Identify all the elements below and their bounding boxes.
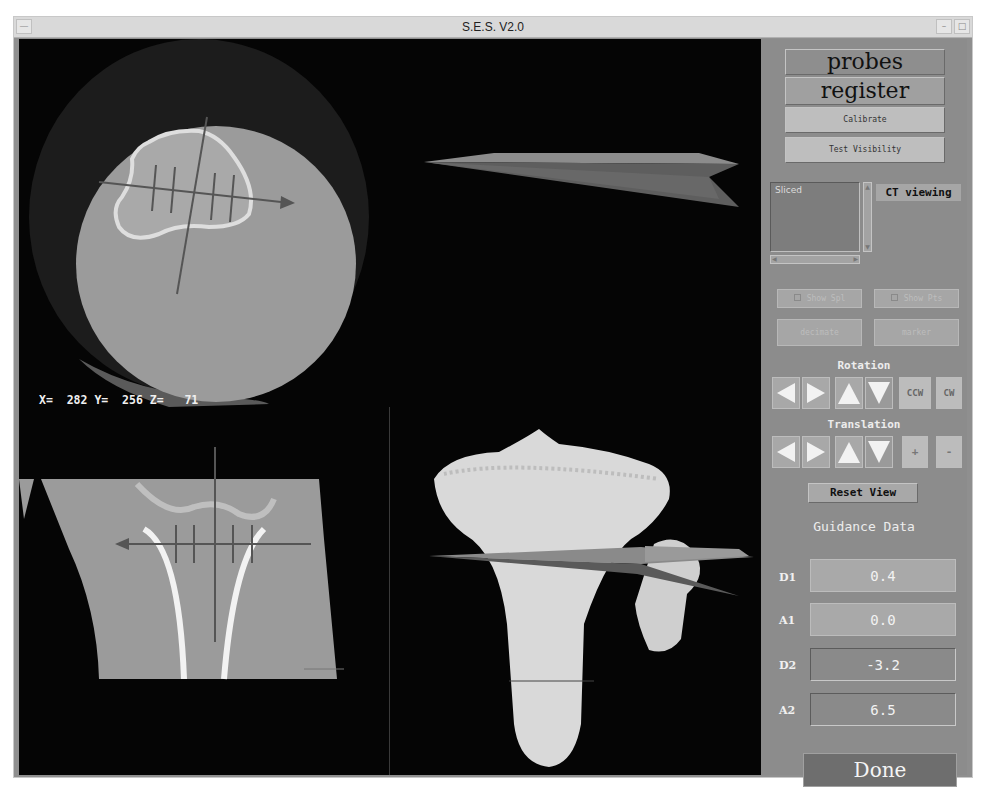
minimize-button[interactable]: – (936, 19, 952, 34)
list-vertical-scrollbar[interactable]: ▲ ▼ (863, 182, 872, 252)
probes-button[interactable]: probes (785, 49, 945, 75)
slice-coordinates: X= 282 Y= 256 Z= 71 (39, 393, 198, 407)
list-horizontal-scrollbar[interactable]: ◀ ▶ (770, 255, 860, 264)
rotate-cw-button[interactable]: CW (936, 377, 962, 409)
a1-label: A1 (779, 614, 795, 627)
axial-ct-view[interactable] (19, 39, 389, 409)
list-item[interactable]: Sliced (771, 183, 859, 197)
ct-viewing-label: CT viewing (876, 184, 961, 201)
rotate-up-button[interactable] (835, 377, 863, 409)
arrow-left-icon (773, 437, 799, 467)
a2-label: A2 (779, 704, 795, 717)
scroll-down-icon[interactable]: ▼ (864, 243, 871, 251)
maximize-button[interactable]: □ (954, 19, 970, 34)
coronal-ct-view[interactable] (19, 439, 389, 775)
done-button[interactable]: Done (803, 753, 957, 787)
translate-up-button[interactable] (835, 436, 863, 468)
d2-label: D2 (779, 659, 796, 672)
scroll-up-icon[interactable]: ▲ (864, 183, 871, 191)
view-separator (389, 407, 390, 775)
a1-value-field: 0.0 (810, 603, 956, 636)
view-mode-list[interactable]: Sliced (770, 182, 860, 252)
rotation-label: Rotation (761, 359, 967, 372)
app-window: — S.E.S. V2.0 – □ X= 282 Y= 256 Z= 71 (13, 16, 973, 778)
scroll-right-icon[interactable]: ▶ (853, 255, 858, 262)
rotate-down-button[interactable] (865, 377, 893, 409)
a2-value-field: 6.5 (810, 693, 956, 726)
arrow-right-icon (803, 437, 829, 467)
d1-label: D1 (779, 571, 796, 584)
checkbox-icon (891, 294, 898, 301)
translate-left-button[interactable] (772, 436, 800, 468)
3d-bone-model-view[interactable] (409, 424, 761, 775)
register-button[interactable]: register (785, 77, 945, 105)
test-visibility-button[interactable]: Test Visibility (785, 137, 945, 163)
translation-label: Translation (761, 418, 967, 431)
d1-value-field: 0.4 (810, 559, 956, 592)
arrow-down-icon (866, 378, 892, 408)
arrow-up-icon (836, 437, 862, 467)
arrow-down-icon (866, 437, 892, 467)
decimate-button[interactable]: decimate (777, 319, 862, 346)
window-title: S.E.S. V2.0 (14, 20, 972, 34)
guidance-data-title: Guidance Data (761, 519, 967, 534)
control-panel: probes register Calibrate Test Visibilit… (761, 39, 967, 775)
show-points-checkbox[interactable]: Show Pts (874, 289, 959, 308)
arrow-left-icon (773, 378, 799, 408)
translate-down-button[interactable] (865, 436, 893, 468)
arrow-right-icon (803, 378, 829, 408)
show-spline-checkbox[interactable]: Show Spl (777, 289, 862, 308)
checkbox-icon (794, 294, 801, 301)
title-bar[interactable]: — S.E.S. V2.0 – □ (14, 17, 972, 38)
reset-view-button[interactable]: Reset View (808, 483, 918, 503)
d2-value-field: -3.2 (810, 648, 956, 681)
calibrate-button[interactable]: Calibrate (785, 107, 945, 133)
visualization-viewport[interactable]: X= 282 Y= 256 Z= 71 (19, 39, 761, 775)
scroll-left-icon[interactable]: ◀ (772, 255, 777, 262)
rotate-left-button[interactable] (772, 377, 800, 409)
translate-right-button[interactable] (802, 436, 830, 468)
probe-plane-view[interactable] (399, 139, 739, 219)
zoom-out-button[interactable]: - (936, 436, 962, 468)
zoom-in-button[interactable]: + (902, 436, 928, 468)
arrow-up-icon (836, 378, 862, 408)
rotate-ccw-button[interactable]: CCW (899, 377, 931, 409)
rotate-right-button[interactable] (802, 377, 830, 409)
marker-button[interactable]: marker (874, 319, 959, 346)
